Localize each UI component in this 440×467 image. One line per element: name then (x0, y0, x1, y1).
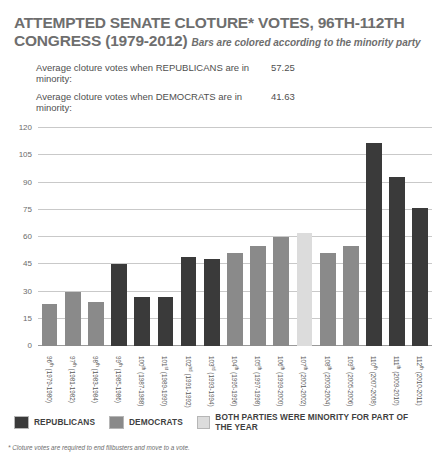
bar-slot (362, 128, 385, 346)
x-label-slot: 101st (1989-1990) (154, 356, 177, 408)
bar[interactable] (134, 297, 150, 346)
x-label-slot: 109th (2005-2006) (339, 356, 362, 408)
legend: REPUBLICANSDEMOCRATSBOTH PARTIES WERE MI… (14, 412, 440, 432)
bar[interactable] (111, 264, 127, 346)
x-label-slot: 106th (1999-2000) (270, 356, 293, 408)
average-value-democrats: 41.63 (271, 91, 295, 102)
y-axis-tick-30: 30 (23, 286, 32, 295)
x-axis-label: 104th (1995-1996) (231, 356, 239, 406)
legend-republicans[interactable]: REPUBLICANS (14, 416, 95, 429)
bar[interactable] (88, 302, 104, 346)
y-axis-tick-15: 15 (23, 313, 32, 322)
x-axis-label: 107th (2001-2002) (300, 356, 308, 406)
x-label-slot: 112th (2010-2011) (409, 356, 432, 408)
x-axis-label: 102nd (1991-1992) (185, 356, 193, 408)
bar-slot (177, 128, 200, 346)
legend-swatch-icon (197, 416, 211, 429)
y-axis-tick-105: 105 (19, 150, 32, 159)
bar-slot (386, 128, 409, 346)
x-axis-label: 101st (1989-1990) (161, 356, 169, 406)
bar-slot (316, 128, 339, 346)
legend-swatch-icon (14, 416, 29, 429)
y-axis-tick-120: 120 (19, 123, 32, 132)
legend-both[interactable]: BOTH PARTIES WERE MINORITY FOR PART OF T… (197, 412, 426, 432)
bar[interactable] (250, 246, 266, 346)
y-axis-tick-75: 75 (23, 204, 32, 213)
x-label-slot: 107th (2001-2002) (293, 356, 316, 408)
x-label-slot: 103rd (1993-1994) (200, 356, 223, 408)
bar-series (38, 128, 432, 346)
bar[interactable] (412, 208, 428, 346)
page-title: ATTEMPTED SENATE CLOTURE* VOTES, 96TH-11… (14, 14, 426, 52)
x-axis-label: 109th (2005-2006) (347, 356, 355, 406)
y-axis-tick-60: 60 (23, 232, 32, 241)
average-label-democrats: Average cloture votes when DEMOCRATS are… (36, 91, 271, 113)
bar[interactable] (389, 177, 405, 346)
bar[interactable] (42, 304, 58, 346)
averages-block: Average cloture votes when REPUBLICANS a… (36, 62, 426, 113)
bar[interactable] (320, 253, 336, 346)
x-axis-label: 110th (2007-2008) (370, 356, 378, 406)
legend-label: DEMOCRATS (129, 417, 183, 427)
x-axis-label: 106th (1999-2000) (277, 356, 285, 406)
x-axis-label: 112th (2010-2011) (416, 356, 424, 405)
x-label-slot: 105th (1997-1998) (247, 356, 270, 408)
x-label-slot: 100th (1987-1988) (131, 356, 154, 408)
x-axis-label: 111th (2009-2010) (393, 356, 401, 405)
bar[interactable] (181, 257, 197, 346)
x-axis-label: 103rd (1993-1994) (208, 356, 216, 407)
bar-slot (154, 128, 177, 346)
legend-swatch-icon (109, 416, 124, 429)
x-label-slot: 104th (1995-1996) (223, 356, 246, 408)
x-label-slot: 108th (2003-2004) (316, 356, 339, 408)
y-axis-tick-45: 45 (23, 259, 32, 268)
x-label-slot: 96th (1979-1980) (38, 356, 61, 408)
bar-chart: 1201059075604530150 96th (1979-1980)97th… (0, 120, 440, 356)
bar-slot (247, 128, 270, 346)
title-subtitle: Bars are colored according to the minori… (192, 37, 421, 48)
bar[interactable] (158, 297, 174, 346)
average-label-republicans: Average cloture votes when REPUBLICANS a… (36, 62, 271, 84)
bar-slot (38, 128, 61, 346)
bar-slot (84, 128, 107, 346)
bar-slot (270, 128, 293, 346)
bar[interactable] (65, 292, 81, 347)
x-axis-label: 99th (1985-1986) (115, 356, 123, 403)
x-label-slot: 110th (2007-2008) (362, 356, 385, 408)
legend-label: REPUBLICANS (34, 417, 95, 427)
y-axis-tick-90: 90 (23, 177, 32, 186)
x-label-slot: 98th (1983-1984) (84, 356, 107, 408)
x-axis-label: 98th (1983-1984) (92, 356, 100, 403)
bar-slot (223, 128, 246, 346)
x-axis-label: 96th (1979-1980) (46, 356, 54, 403)
header: ATTEMPTED SENATE CLOTURE* VOTES, 96TH-11… (0, 0, 440, 113)
bar[interactable] (366, 143, 382, 346)
x-axis-label: 105th (1997-1998) (254, 356, 262, 406)
average-value-republicans: 57.25 (271, 62, 295, 73)
plot-area: 1201059075604530150 (38, 128, 432, 346)
bar-slot (200, 128, 223, 346)
legend-label: BOTH PARTIES WERE MINORITY FOR PART OF T… (215, 412, 426, 432)
x-label-slot: 102nd (1991-1992) (177, 356, 200, 408)
x-axis-label: 108th (2003-2004) (324, 356, 332, 406)
x-axis-label: 100th (1987-1988) (138, 356, 146, 406)
bar[interactable] (227, 253, 243, 346)
average-row-republicans: Average cloture votes when REPUBLICANS a… (36, 62, 426, 84)
x-axis-label: 97th (1981-1982) (69, 356, 77, 403)
average-row-democrats: Average cloture votes when DEMOCRATS are… (36, 91, 426, 113)
x-axis-labels: 96th (1979-1980)97th (1981-1982)98th (19… (38, 356, 432, 408)
bar-slot (339, 128, 362, 346)
bar-slot (409, 128, 432, 346)
x-label-slot: 99th (1985-1986) (108, 356, 131, 408)
bar[interactable] (273, 237, 289, 346)
x-label-slot: 97th (1981-1982) (61, 356, 84, 408)
bar[interactable] (343, 246, 359, 346)
footnote: * Cloture votes are required to end fili… (8, 444, 190, 451)
bar[interactable] (204, 259, 220, 346)
y-axis-tick-0: 0 (28, 341, 32, 350)
bar-slot (61, 128, 84, 346)
bar-slot (131, 128, 154, 346)
legend-democrats[interactable]: DEMOCRATS (109, 416, 183, 429)
bar[interactable] (297, 233, 313, 346)
bar-slot (293, 128, 316, 346)
